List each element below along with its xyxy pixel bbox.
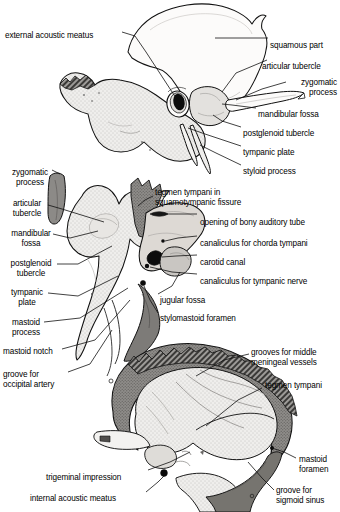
label-external-acoustic-meatus: external acoustic meatus — [5, 31, 93, 41]
label-canaliculus-for-tympanic-nerve: canaliculus for tympanic nerve — [200, 277, 307, 287]
canaliculus-tympanic-nerve-opening — [145, 264, 149, 268]
jugular-fossa-shape — [160, 247, 191, 276]
label-mandibular-fossa: mandibular fossa — [258, 110, 319, 120]
label-tympanic-plate: tympanic plate — [243, 148, 294, 158]
label-canaliculus-for-chorda-tympani: canaliculus for chorda tympani — [200, 239, 308, 249]
internal-acoustic-meatus-opening — [161, 470, 168, 477]
label-groove-for-sigmoid-sinus: groove forsigmoid sinus — [276, 486, 324, 507]
label-zygomatic-process: zygomaticprocess — [277, 78, 337, 99]
label-zygomatic-process-2: zygomaticprocess — [3, 168, 57, 189]
label-articular-tubercle-2: articulartubercle — [3, 199, 51, 220]
trigeminal-impression-shape — [145, 445, 177, 468]
label-trigeminal-impression: trigeminal impression — [46, 473, 121, 483]
label-articular-tubercle: articular tubercle — [262, 62, 321, 72]
label-tegmen-tympani: tegmen tympani — [265, 381, 322, 391]
label-squamous-part: squamous part — [270, 41, 323, 51]
label-postglenoid-tubercle: postglenoid tubercle — [243, 129, 314, 139]
label-groove-for-occipital-artery: groove foroccipital artery — [3, 370, 54, 391]
label-tympanic-plate-2: tympanicplate — [3, 288, 51, 309]
label-mastoid-process: mastoidprocess — [3, 318, 49, 339]
label-opening-of-bony-auditory-tube: opening of bony auditory tube — [200, 218, 305, 228]
occipital-artery-groove-line — [104, 308, 112, 376]
label-stylomastoid-foramen: stylomastoid foramen — [160, 314, 236, 324]
stylomastoid-foramen-opening — [140, 280, 145, 285]
label-carotid-canal: carotid canal — [200, 258, 245, 268]
label-mastoid-notch: mastoid notch — [3, 347, 53, 357]
label-postglenoid-tubercle-2: postglenoidtubercle — [3, 259, 59, 280]
label-tegmen-tympani-squamotympanic: tegmen tympani insquamotympanic fissure — [155, 188, 241, 209]
label-grooves-for-middle-meningeal-vessels: grooves for middlemeningeal vessels — [251, 348, 317, 369]
canaliculus-chorda-tympani-opening — [161, 239, 165, 243]
label-mandibular-fossa-2: mandibularfossa — [3, 229, 59, 250]
anatomy-figure-root: external acoustic meatus squamous part a… — [0, 0, 340, 512]
label-internal-acoustic-meatus: internal acoustic meatus — [30, 494, 116, 504]
panel-internal-view — [94, 344, 297, 512]
temporal-bone-illustration — [0, 0, 340, 512]
mastoid-notch-line — [112, 300, 120, 364]
label-styloid-process: styloid process — [243, 167, 296, 177]
label-jugular-fossa: jugular fossa — [160, 296, 205, 306]
label-mastoid-foramen: mastoidforamen — [299, 455, 328, 476]
